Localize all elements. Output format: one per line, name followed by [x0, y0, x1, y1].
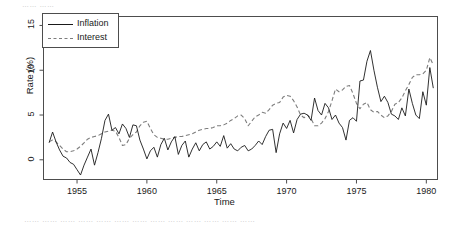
- chart-legend: Inflation Interest: [42, 13, 119, 48]
- legend-item-interest: Interest: [43, 31, 120, 46]
- y-tick-5: 5: [26, 104, 36, 124]
- series-line-inflation: [49, 51, 433, 175]
- legend-label-interest: Interest: [77, 32, 107, 42]
- x-tick-1960: 1960: [127, 186, 167, 196]
- series-line-interest: [49, 58, 433, 152]
- y-tick-15: 15: [26, 14, 36, 34]
- x-tick-1955: 1955: [57, 186, 97, 196]
- legend-label-inflation: Inflation: [77, 18, 109, 28]
- clipped-caption-text: …… …… …… …… …… …… …… …… …… …… …… …… ……: [24, 214, 436, 225]
- y-tick-0: 0: [26, 149, 36, 169]
- x-tick-1970: 1970: [267, 186, 307, 196]
- x-tick-1980: 1980: [406, 186, 446, 196]
- y-tick-10: 10: [26, 59, 36, 79]
- figure-container: …… …… Rate (%) 051015 195519601965197019…: [0, 0, 449, 225]
- legend-item-inflation: Inflation: [43, 17, 120, 32]
- x-axis-label: Time: [0, 196, 449, 207]
- x-tick-1975: 1975: [336, 186, 376, 196]
- x-tick-1965: 1965: [197, 186, 237, 196]
- legend-key-interest-icon: [48, 38, 73, 39]
- legend-key-inflation-icon: [48, 24, 73, 25]
